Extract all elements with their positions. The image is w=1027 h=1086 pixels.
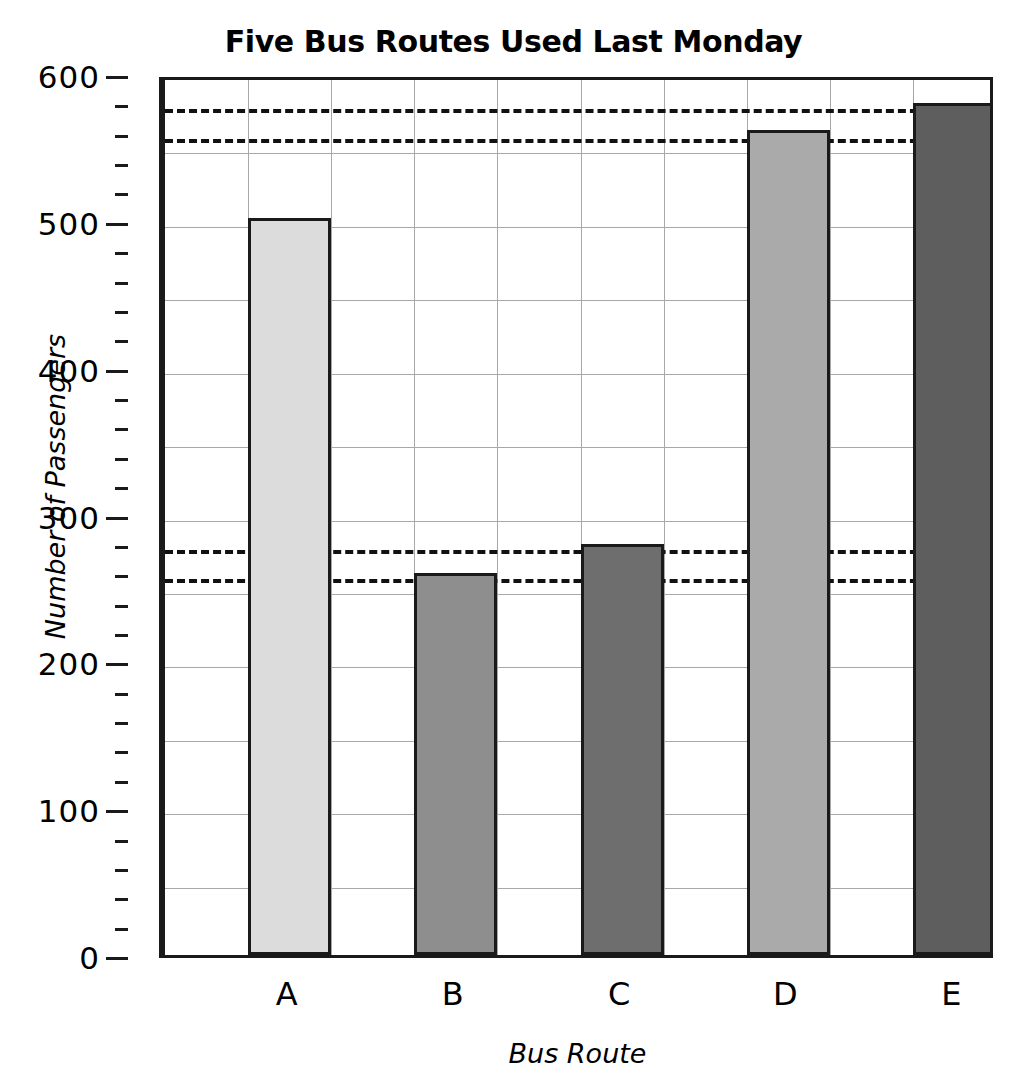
y-tick-minor-160	[115, 722, 128, 725]
y-tick-minor-360	[115, 428, 128, 431]
x-tick-label-a: A	[227, 975, 347, 1013]
bar-e	[913, 103, 993, 955]
y-tick-label-0: 0	[79, 940, 100, 976]
gridline-x-6	[664, 80, 665, 955]
y-tick-major-600	[106, 76, 128, 79]
y-axis: 6005004003002001000	[0, 0, 162, 1086]
y-tick-minor-220	[115, 634, 128, 637]
y-tick-major-0	[106, 957, 128, 960]
y-tick-minor-40	[115, 898, 128, 901]
y-tick-major-500	[106, 223, 128, 226]
y-tick-minor-560	[115, 135, 128, 138]
reference-line-580	[165, 109, 990, 113]
bar-chart-figure: Five Bus Routes Used Last Monday 6005004…	[0, 0, 1027, 1086]
y-tick-minor-580	[115, 105, 128, 108]
y-tick-label-100: 100	[38, 793, 100, 829]
bar-a	[248, 218, 331, 955]
gridline-x-8	[830, 80, 831, 955]
y-tick-minor-460	[115, 282, 128, 285]
y-tick-major-400	[106, 370, 128, 373]
y-tick-minor-420	[115, 340, 128, 343]
y-tick-minor-520	[115, 193, 128, 196]
bar-c	[581, 544, 664, 955]
y-tick-major-300	[106, 517, 128, 520]
y-tick-minor-60	[115, 869, 128, 872]
y-tick-minor-320	[115, 487, 128, 490]
y-tick-minor-120	[115, 781, 128, 784]
y-tick-major-100	[106, 810, 128, 813]
plot-area	[162, 77, 993, 958]
y-axis-label: Number of Passengers	[40, 227, 71, 747]
y-tick-minor-280	[115, 546, 128, 549]
y-tick-major-200	[106, 663, 128, 666]
y-tick-minor-480	[115, 252, 128, 255]
y-tick-minor-180	[115, 693, 128, 696]
y-tick-minor-440	[115, 311, 128, 314]
y-tick-minor-20	[115, 928, 128, 931]
y-tick-minor-80	[115, 840, 128, 843]
y-tick-label-600: 600	[38, 59, 100, 95]
gridline-x-2	[331, 80, 332, 955]
y-tick-minor-380	[115, 399, 128, 402]
reference-line-560	[165, 139, 990, 143]
y-tick-minor-540	[115, 164, 128, 167]
x-tick-label-c: C	[559, 975, 679, 1013]
y-tick-minor-140	[115, 751, 128, 754]
y-tick-minor-240	[115, 605, 128, 608]
gridline-y-550	[165, 153, 990, 154]
gridline-x-4	[497, 80, 498, 955]
bar-b	[414, 573, 497, 955]
y-tick-minor-340	[115, 458, 128, 461]
x-tick-label-d: D	[725, 975, 845, 1013]
bar-d	[747, 130, 830, 955]
x-tick-label-b: B	[393, 975, 513, 1013]
x-axis-label: Bus Route	[162, 1038, 993, 1069]
x-tick-label-e: E	[891, 975, 1011, 1013]
y-tick-minor-260	[115, 575, 128, 578]
